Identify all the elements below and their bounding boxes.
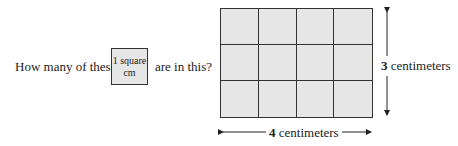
height-label: 3 centimeters <box>381 56 451 76</box>
height-unit: centimeters <box>391 58 451 73</box>
width-value: 4 <box>269 125 276 140</box>
width-unit: centimeters <box>279 125 339 140</box>
height-value: 3 <box>381 58 388 73</box>
width-label: 4 centimeters <box>266 125 342 141</box>
